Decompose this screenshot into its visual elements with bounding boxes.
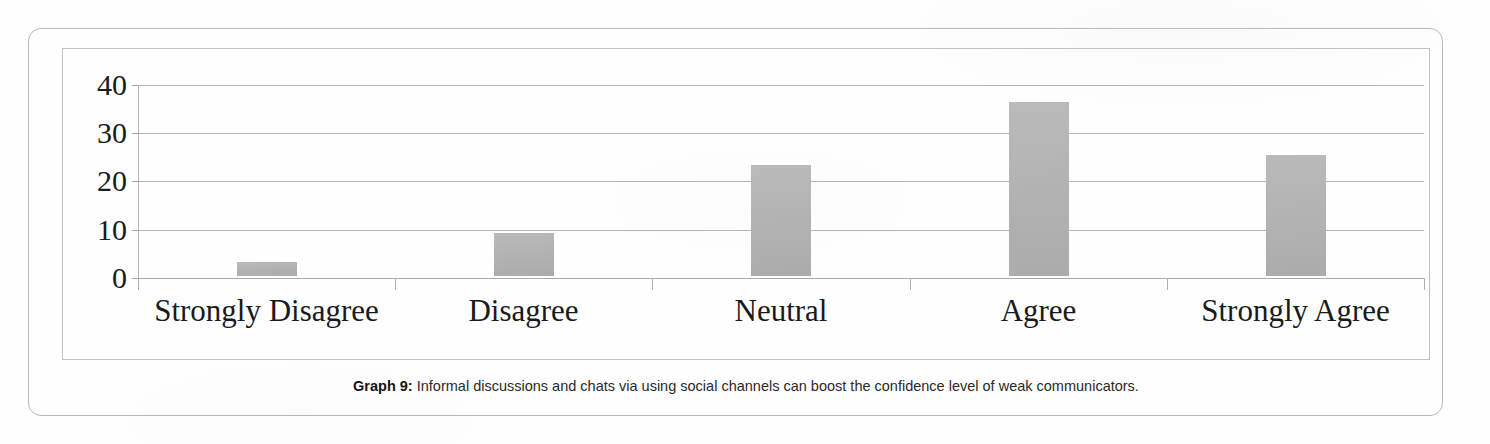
y-axis-tick-label-40: 40 [67,70,127,100]
x-axis-label-strongly-agree: Strongly Agree [1167,293,1424,329]
figure-caption: Graph 9: Informal discussions and chats … [62,377,1430,396]
figure-caption-text: Informal discussions and chats via using… [413,378,1139,394]
chart-plot-frame: 40 30 20 10 0 [62,48,1430,360]
y-axis-tick-label-20: 20 [67,166,127,196]
figure-caption-label: Graph 9: [353,378,413,394]
bar-slot-neutral [652,69,910,276]
bar-slot-disagree [395,69,652,276]
x-axis-tick-1 [395,278,396,290]
x-axis-label-strongly-disagree: Strongly Disagree [138,293,395,329]
bar-slot-strongly-agree [1167,69,1424,276]
x-axis-label-neutral: Neutral [652,293,910,329]
x-axis-label-disagree: Disagree [395,293,652,329]
bar-strongly-disagree[interactable] [237,262,297,277]
bar-neutral[interactable] [751,165,811,276]
bar-strongly-agree[interactable] [1266,155,1326,276]
figure-root: 40 30 20 10 0 [0,0,1490,444]
bar-disagree[interactable] [494,233,554,276]
bar-slot-agree [910,69,1167,276]
axis-baseline [138,278,1424,279]
y-axis-tick-label-0: 0 [67,263,127,293]
x-axis-tick-4 [1167,278,1168,290]
bar-agree[interactable] [1009,102,1069,276]
plot-area: 40 30 20 10 0 [63,49,1429,359]
x-axis-tick-5 [1424,278,1425,290]
x-axis-tick-2 [652,278,653,290]
y-axis-tick-label-30: 30 [67,118,127,148]
bar-slot-strongly-disagree [138,69,395,276]
x-axis-label-agree: Agree [910,293,1167,329]
y-axis-tick-label-10: 10 [67,215,127,245]
x-axis-tick-0 [138,278,139,290]
x-axis-tick-3 [910,278,911,290]
